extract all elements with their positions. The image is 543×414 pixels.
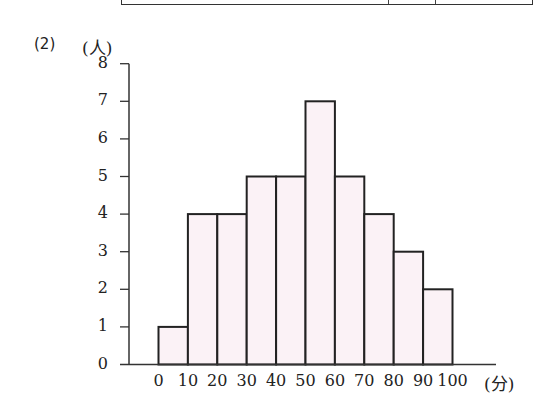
histogram-bar xyxy=(394,252,423,365)
histogram-bar xyxy=(423,289,452,364)
histogram-bar xyxy=(247,177,276,365)
histogram-bar xyxy=(188,214,217,364)
histogram-bar xyxy=(335,177,364,365)
histogram-chart xyxy=(0,0,543,414)
histogram-bar xyxy=(276,177,305,365)
histogram-bar xyxy=(306,101,335,364)
histogram-bar xyxy=(217,214,246,364)
histogram-bar xyxy=(159,327,188,365)
histogram-bar xyxy=(364,214,393,364)
